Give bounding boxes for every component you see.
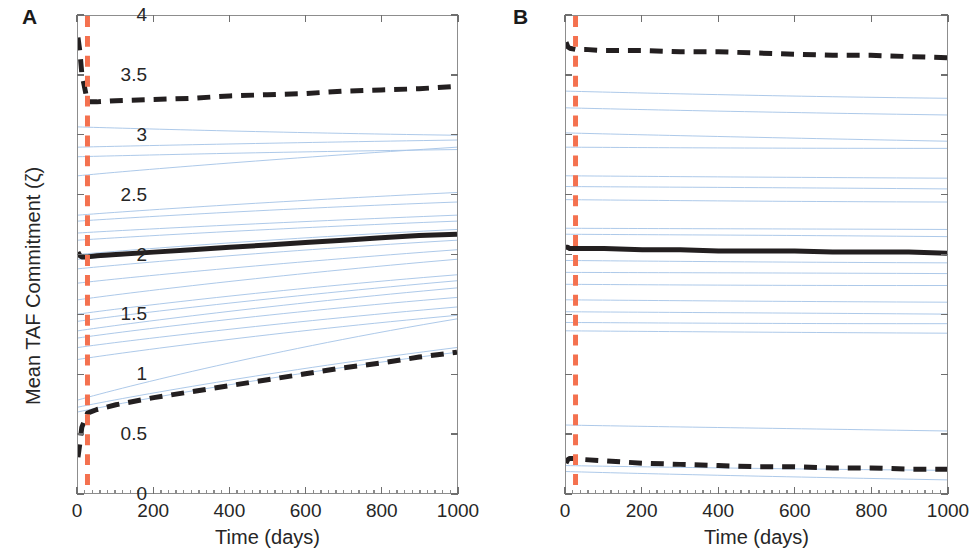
y-tick-mark — [941, 374, 948, 375]
x-tick-mark-minor — [244, 490, 245, 494]
x-tick-mark-minor — [886, 490, 887, 494]
x-tick-mark-minor — [832, 490, 833, 494]
trajectory-line — [566, 331, 947, 333]
y-tick-mark — [77, 314, 84, 315]
x-tick-mark-minor — [168, 490, 169, 494]
y-tick-label: 2.5 — [87, 184, 147, 206]
x-tick-mark-minor — [633, 490, 634, 494]
trajectory-line — [566, 466, 947, 471]
panel-b-data-svg — [566, 16, 947, 493]
x-tick-mark-minor — [434, 490, 435, 494]
x-tick-mark-minor — [901, 490, 902, 494]
x-tick-mark — [871, 15, 872, 22]
x-tick-label: 800 — [366, 500, 398, 522]
y-tick-label: 0.5 — [87, 423, 147, 445]
y-tick-mark — [941, 314, 948, 315]
x-tick-mark-minor — [419, 490, 420, 494]
x-tick-mark-minor — [610, 490, 611, 494]
x-tick-mark-minor — [848, 490, 849, 494]
y-tick-mark — [941, 433, 948, 434]
y-tick-mark — [451, 194, 458, 195]
x-tick-mark-minor — [404, 490, 405, 494]
x-tick-mark-minor — [672, 490, 673, 494]
x-tick-mark-minor — [84, 490, 85, 494]
trajectory-line — [566, 147, 947, 148]
x-axis-title: Time (days) — [215, 526, 320, 549]
trajectory-line — [566, 133, 947, 141]
x-tick-mark-minor — [687, 490, 688, 494]
trajectory-line — [566, 200, 947, 202]
x-tick-mark — [718, 487, 719, 494]
x-tick-mark-minor — [664, 490, 665, 494]
x-tick-mark-minor — [191, 490, 192, 494]
x-tick-mark-minor — [213, 490, 214, 494]
x-tick-mark-minor — [809, 490, 810, 494]
x-tick-mark — [641, 487, 642, 494]
x-tick-mark-minor — [335, 490, 336, 494]
x-tick-mark-minor — [825, 490, 826, 494]
y-tick-mark — [451, 134, 458, 135]
trajectory-line — [566, 260, 947, 262]
y-tick-label: 2 — [87, 244, 147, 266]
y-tick-mark — [77, 374, 84, 375]
x-tick-mark-minor — [221, 490, 222, 494]
x-tick-mark-minor — [297, 490, 298, 494]
x-tick-mark-minor — [786, 490, 787, 494]
x-tick-mark-minor — [198, 490, 199, 494]
y-tick-mark — [941, 254, 948, 255]
panel-b-plot-area — [565, 15, 948, 494]
x-tick-mark — [153, 487, 154, 494]
x-tick-mark — [76, 15, 77, 22]
x-tick-label: 400 — [702, 500, 734, 522]
x-tick-mark-minor — [894, 490, 895, 494]
trajectory-line — [566, 322, 947, 323]
x-tick-label: 1000 — [927, 500, 969, 522]
x-tick-mark-minor — [389, 490, 390, 494]
x-tick-mark — [947, 15, 948, 22]
x-axis-title: Time (days) — [704, 526, 809, 549]
y-tick-mark — [565, 134, 572, 135]
x-tick-mark — [564, 15, 565, 22]
y-tick-label: 4 — [87, 4, 147, 26]
trajectory-line — [566, 234, 947, 236]
x-tick-mark-minor — [817, 490, 818, 494]
y-tick-mark — [77, 194, 84, 195]
x-tick-mark — [794, 15, 795, 22]
x-tick-mark — [457, 15, 458, 22]
trajectory-line — [566, 300, 947, 302]
trajectory-line — [566, 472, 947, 480]
ci-bound-line — [566, 42, 947, 57]
trajectory-line — [566, 425, 947, 431]
y-tick-mark — [565, 433, 572, 434]
x-tick-mark-minor — [649, 490, 650, 494]
trajectory-line — [566, 284, 947, 285]
y-tick-mark — [77, 14, 84, 15]
y-tick-mark — [565, 493, 572, 494]
x-tick-mark — [794, 487, 795, 494]
x-tick-mark — [76, 487, 77, 494]
x-tick-mark-minor — [924, 490, 925, 494]
y-tick-mark — [565, 74, 572, 75]
x-tick-mark-minor — [940, 490, 941, 494]
x-tick-mark-minor — [450, 490, 451, 494]
x-tick-mark-minor — [343, 490, 344, 494]
x-tick-mark-minor — [442, 490, 443, 494]
x-tick-mark-minor — [274, 490, 275, 494]
x-tick-mark-minor — [909, 490, 910, 494]
x-tick-label: 200 — [626, 500, 658, 522]
y-tick-mark — [77, 254, 84, 255]
y-tick-mark — [565, 314, 572, 315]
x-tick-mark-minor — [572, 490, 573, 494]
y-tick-mark — [451, 254, 458, 255]
y-tick-label: 3 — [87, 124, 147, 146]
x-tick-mark — [305, 487, 306, 494]
panel-a: A 00.511.522.533.54 02004006008001000Tim… — [0, 0, 485, 556]
x-tick-mark-minor — [917, 490, 918, 494]
x-tick-mark-minor — [412, 490, 413, 494]
x-tick-mark-minor — [878, 490, 879, 494]
y-tick-mark — [941, 194, 948, 195]
trajectory-line — [566, 176, 947, 178]
x-tick-mark-minor — [267, 490, 268, 494]
x-tick-mark-minor — [427, 490, 428, 494]
x-tick-mark-minor — [595, 490, 596, 494]
